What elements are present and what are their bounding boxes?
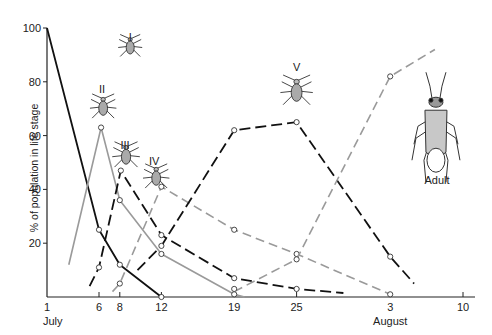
stage-label-adult: Adult — [424, 174, 449, 186]
data-point-marker — [159, 251, 164, 256]
life-stage-line-chart: 20406080100168121925310JulyAugust IIIIII… — [0, 0, 492, 335]
stage-label-i: I — [129, 31, 132, 43]
series-adult — [232, 50, 435, 292]
stage-labels: IIIIIIIVVAdult — [99, 31, 449, 186]
stage-v-insect-icon — [280, 75, 312, 105]
data-point-marker — [294, 120, 299, 125]
data-point-marker — [232, 286, 237, 291]
data-point-marker — [294, 257, 299, 262]
month-label: July — [43, 315, 63, 327]
data-point-marker — [159, 294, 164, 299]
data-point-marker — [294, 286, 299, 291]
stage-label-ii: II — [99, 83, 105, 95]
y-tick-label: 80 — [29, 76, 41, 88]
data-point-marker — [388, 292, 393, 297]
x-tick-label: 12 — [155, 301, 167, 313]
stage-label-iii: III — [120, 139, 129, 151]
data-point-marker — [98, 125, 103, 130]
data-point-marker — [96, 227, 101, 232]
stage-label-iv: IV — [149, 155, 160, 167]
stage-iv-insect-icon — [143, 164, 169, 188]
stage-ii-insect-icon — [90, 94, 116, 118]
data-point-marker — [232, 292, 237, 297]
data-point-marker — [159, 184, 164, 189]
x-tick-label: 6 — [96, 301, 102, 313]
data-point-marker — [388, 74, 393, 79]
data-point-marker — [96, 265, 101, 270]
x-tick-label: 8 — [117, 301, 123, 313]
x-tick-label: 19 — [228, 301, 240, 313]
month-label: August — [373, 315, 407, 327]
x-tick-label: 10 — [457, 301, 469, 313]
x-tick-label: 1 — [44, 301, 50, 313]
data-point-marker — [232, 227, 237, 232]
insect-illustrations — [90, 34, 460, 188]
data-point-marker — [117, 198, 122, 203]
data-point-marker — [117, 281, 122, 286]
series-i — [47, 28, 164, 300]
x-tick-label: 3 — [387, 301, 393, 313]
y-tick-label: 100 — [23, 22, 41, 34]
stage-label-v: V — [293, 61, 301, 73]
y-axis-title: % of population in life stage — [28, 104, 40, 233]
data-point-marker — [118, 168, 123, 173]
y-tick-label: 20 — [29, 237, 41, 249]
data-point-marker — [159, 233, 164, 238]
data-point-marker — [232, 276, 237, 281]
x-tick-label: 25 — [290, 301, 302, 313]
data-point-marker — [117, 262, 122, 267]
adult-insect-icon — [412, 72, 460, 182]
series-lines — [47, 28, 435, 300]
data-point-marker — [159, 243, 164, 248]
series-ii — [69, 125, 245, 297]
data-point-marker — [232, 128, 237, 133]
series-iii — [90, 168, 344, 293]
series-v — [138, 120, 415, 284]
data-point-marker — [388, 254, 393, 259]
